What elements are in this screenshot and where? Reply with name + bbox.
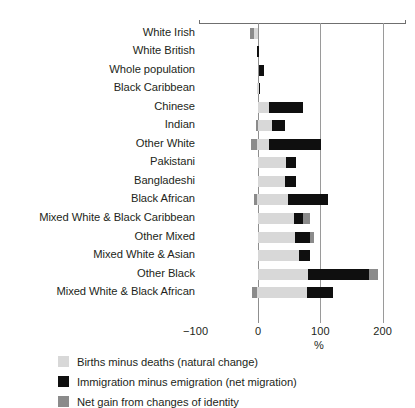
- category-label: White British: [133, 44, 195, 57]
- legend-item-label: Net gain from changes of identity: [77, 396, 239, 408]
- bar-segment-natural-change: [258, 176, 285, 187]
- category-label: Mixed White & Black African: [56, 285, 195, 298]
- bar-segment-identity-change: [303, 213, 310, 224]
- bar-segment-natural-change: [254, 28, 258, 39]
- x-tick-label-0: 0: [255, 325, 261, 337]
- legend-item[interactable]: Net gain from changes of identity: [58, 392, 408, 408]
- bar-segment-net-migration: [272, 120, 286, 131]
- x-tick-label--100: −100: [183, 325, 208, 337]
- gridline-200: [383, 23, 384, 323]
- bar-segment-net-migration: [269, 139, 321, 150]
- axis-end-tick-0: [199, 20, 200, 24]
- bar-segment-net-migration: [259, 65, 263, 76]
- category-label: Indian: [165, 118, 195, 131]
- bar-segment-natural-change: [258, 120, 272, 131]
- bar-segment-net-migration: [286, 157, 296, 168]
- axis-end-tick-1: [405, 20, 406, 24]
- category-label: Pakistani: [150, 155, 195, 168]
- legend-swatch-natural-change: [58, 356, 69, 367]
- category-label: Bangladeshi: [134, 174, 195, 187]
- category-label: Black Caribbean: [114, 81, 195, 94]
- bar-segment-natural-change: [258, 269, 308, 280]
- bar-segment-net-migration: [288, 194, 328, 205]
- legend-item[interactable]: Births minus deaths (natural change): [58, 352, 408, 371]
- chart-legend: Births minus deaths (natural change)Immi…: [58, 352, 408, 408]
- x-tick-label-200: 200: [373, 325, 392, 337]
- bar-segment-net-migration: [285, 176, 296, 187]
- bar-segment-natural-change: [258, 232, 295, 243]
- category-label: Other Mixed: [135, 230, 195, 243]
- bar-segment-identity-change: [369, 269, 378, 280]
- bar-segment-natural-change: [257, 194, 288, 205]
- bar-segment-natural-change: [258, 157, 286, 168]
- legend-item-label: Immigration minus emigration (net migrat…: [77, 376, 297, 388]
- bar-segment-net-migration: [307, 287, 333, 298]
- bar-segment-identity-change: [310, 232, 314, 243]
- x-axis-unit-label: %: [314, 339, 324, 351]
- population-change-bar-chart: White IrishWhite BritishWhole population…: [0, 0, 415, 408]
- bar-segment-net-migration: [295, 232, 309, 243]
- category-label: Black African: [131, 192, 195, 205]
- bar-segment-net-migration: [269, 102, 304, 113]
- legend-swatch-net-migration: [58, 376, 69, 387]
- bar-segment-net-migration: [294, 213, 303, 224]
- category-axis-labels: White IrishWhite BritishWhole population…: [0, 0, 195, 320]
- category-label: Other Black: [137, 267, 195, 280]
- bar-segment-natural-change: [257, 287, 307, 298]
- legend-swatch-identity-change: [58, 396, 69, 407]
- category-label: Mixed White & Asian: [93, 248, 195, 261]
- bar-segment-net-migration: [299, 250, 311, 261]
- category-label: Other White: [136, 137, 195, 150]
- legend-item[interactable]: Immigration minus emigration (net migrat…: [58, 372, 408, 391]
- x-tick-label-100: 100: [311, 325, 330, 337]
- bar-segment-natural-change: [258, 250, 299, 261]
- category-label: Chinese: [154, 100, 195, 113]
- bar-segment-natural-change: [258, 213, 294, 224]
- category-label: White Irish: [143, 26, 195, 39]
- bar-segment-net-migration: [257, 46, 258, 57]
- category-label: Mixed White & Black Caribbean: [39, 211, 195, 224]
- bar-segment-net-migration: [259, 83, 260, 94]
- bar-segment-natural-change: [257, 139, 269, 150]
- legend-item-label: Births minus deaths (natural change): [77, 356, 258, 368]
- category-label: Whole population: [109, 63, 195, 76]
- bar-segment-net-migration: [308, 269, 369, 280]
- bar-segment-natural-change: [258, 102, 269, 113]
